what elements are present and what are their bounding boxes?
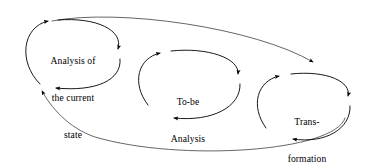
node-label-line: the current (27, 92, 119, 104)
node-label-line: Analysis of (27, 55, 119, 67)
node-label-line: state (27, 129, 119, 141)
node-label-line: formation (257, 153, 357, 163)
node-label-transformation: Trans- formation (257, 92, 357, 163)
node-label-line: Trans- (257, 116, 357, 128)
process-cycle-diagram: Analysis of the current state To-be Anal… (0, 0, 371, 163)
node-label-analysis-of-current-state: Analysis of the current state (27, 31, 119, 163)
node-label-line: To-be (142, 96, 234, 108)
node-label-line: Analysis (142, 133, 234, 145)
tobe-loop-arc-top (171, 50, 238, 74)
node-label-to-be-analysis: To-be Analysis (142, 72, 234, 163)
